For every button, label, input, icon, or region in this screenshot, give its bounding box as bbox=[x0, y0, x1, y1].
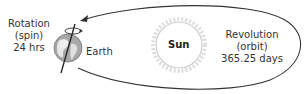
rotation-duration: 24 hrs bbox=[4, 42, 54, 54]
rotation-subtitle: (spin) bbox=[4, 30, 54, 42]
earth-icon bbox=[54, 24, 83, 73]
rotation-title: Rotation bbox=[4, 18, 54, 30]
sun-label: Sun bbox=[168, 39, 189, 50]
orbit-arrow-icon bbox=[80, 15, 88, 22]
revolution-title: Revolution bbox=[220, 29, 284, 41]
earth-label: Earth bbox=[86, 46, 113, 58]
revolution-duration: 365.25 days bbox=[220, 53, 284, 65]
revolution-subtitle: (orbit) bbox=[220, 41, 284, 53]
rotation-label: Rotation (spin) 24 hrs bbox=[4, 18, 54, 54]
revolution-label: Revolution (orbit) 365.25 days bbox=[220, 29, 284, 65]
